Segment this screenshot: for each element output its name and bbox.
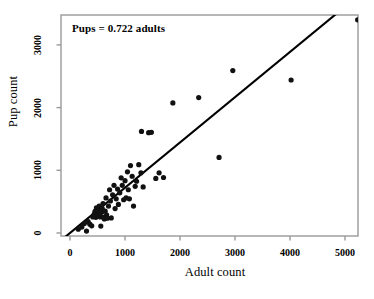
data-point <box>120 183 125 188</box>
data-point <box>128 163 133 168</box>
data-point <box>216 155 221 160</box>
data-point <box>141 184 146 189</box>
data-point <box>111 183 116 188</box>
plot-canvas <box>0 0 374 299</box>
data-point <box>100 201 105 206</box>
data-point <box>125 169 130 174</box>
data-point <box>117 190 122 195</box>
data-point <box>136 162 141 167</box>
data-point <box>107 187 112 192</box>
data-point <box>122 178 127 183</box>
data-point <box>139 129 144 134</box>
data-point <box>196 95 201 100</box>
data-point <box>110 192 115 197</box>
data-point <box>98 224 103 229</box>
data-point <box>109 215 114 220</box>
data-point <box>134 179 139 184</box>
data-point <box>126 187 131 192</box>
data-point <box>230 68 235 73</box>
data-point <box>114 196 119 201</box>
data-point <box>149 130 154 135</box>
data-point <box>89 223 94 228</box>
scatter-plot-figure: Pup count Adult count Pups = 0.722 adult… <box>0 0 374 299</box>
data-point <box>108 198 113 203</box>
data-point <box>289 77 294 82</box>
data-point <box>113 206 118 211</box>
data-point <box>84 229 89 234</box>
data-point <box>116 202 121 207</box>
data-point <box>157 170 162 175</box>
data-point <box>170 100 175 105</box>
data-point <box>106 203 111 208</box>
data-point <box>138 170 143 175</box>
data-points-group <box>76 17 361 234</box>
data-point <box>131 203 136 208</box>
data-point <box>153 176 158 181</box>
data-point <box>133 184 138 189</box>
data-point <box>161 175 166 180</box>
data-point <box>130 174 135 179</box>
data-point <box>103 195 108 200</box>
data-point <box>355 17 360 22</box>
data-point <box>127 196 132 201</box>
